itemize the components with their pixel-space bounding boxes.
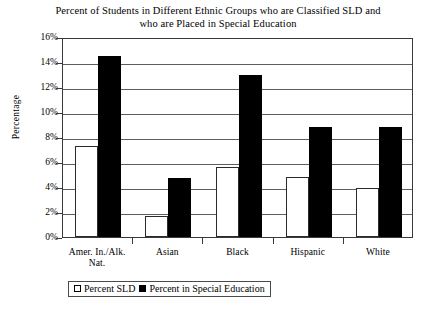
bar-chart-figure: Percent of Students in Different Ethnic … (0, 0, 429, 311)
legend-entry[interactable]: Percent in Special Education (139, 283, 264, 294)
x-category-label-line: White (343, 247, 413, 258)
x-category-label: Amer. In./Alk.Nat. (62, 247, 132, 269)
y-tick-label: 6% (24, 158, 58, 168)
bar-special-education (309, 127, 332, 237)
y-tick-label: 2% (24, 208, 58, 218)
legend-entry[interactable]: Percent SLD (74, 283, 135, 294)
bar-special-education (98, 56, 121, 237)
y-tick-label: 14% (24, 58, 58, 68)
chart-title-line-2: who are Placed in Special Education (38, 17, 398, 30)
y-tick-label: 4% (24, 183, 58, 193)
y-tick-label: 10% (24, 108, 58, 118)
bar-special-education (239, 75, 262, 238)
bar-sld (75, 146, 98, 237)
x-category-label-line: Black (202, 247, 272, 258)
chart-title: Percent of Students in Different Ethnic … (38, 4, 398, 30)
x-category-label-line: Hispanic (273, 247, 343, 258)
y-tick-label: 8% (24, 133, 58, 143)
bar-sld (286, 177, 309, 237)
x-category-label-line: Amer. In./Alk. (62, 247, 132, 258)
y-tick-mark (56, 238, 62, 239)
legend-swatch-filled-icon (139, 285, 146, 292)
x-category-label: Asian (132, 247, 202, 258)
x-category-label-line: Nat. (62, 258, 132, 269)
bar-sld (145, 216, 168, 237)
legend-label: Percent in Special Education (149, 283, 264, 294)
y-tick-label: 16% (24, 33, 58, 43)
x-tick-mark (132, 238, 133, 244)
y-axis-label: Percentage (11, 77, 21, 157)
x-category-label-line: Asian (132, 247, 202, 258)
legend-label: Percent SLD (84, 283, 135, 294)
x-category-label: White (343, 247, 413, 258)
bar-sld (356, 188, 379, 237)
y-tick-label: 0% (24, 233, 58, 243)
bar-sld (216, 167, 239, 237)
plot-area (62, 38, 413, 238)
bar-special-education (168, 178, 191, 237)
y-tick-label: 12% (24, 83, 58, 93)
x-tick-mark (202, 238, 203, 244)
legend-swatch-open-icon (74, 285, 81, 292)
x-category-label: Black (202, 247, 272, 258)
x-tick-mark (343, 238, 344, 244)
x-tick-mark (273, 238, 274, 244)
x-category-label: Hispanic (273, 247, 343, 258)
bar-special-education (379, 127, 402, 237)
chart-title-line-1: Percent of Students in Different Ethnic … (38, 4, 398, 17)
chart-legend: Percent SLDPercent in Special Education (68, 281, 271, 297)
